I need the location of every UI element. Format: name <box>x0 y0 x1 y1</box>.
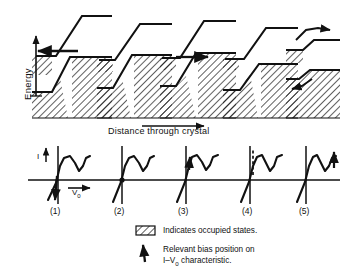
iv-characteristic-curve <box>113 156 154 202</box>
voltage-axis-label: V0 <box>72 188 81 199</box>
iv-characteristic-curve <box>177 155 218 202</box>
distance-axis-label: Distance through crystal <box>108 126 209 136</box>
iv-panel-5 <box>288 146 340 204</box>
energy-axis-label: Energy <box>22 68 33 100</box>
thermionic-flow-arrow-upper <box>296 28 330 40</box>
iv-characteristic-curve <box>48 156 90 200</box>
legend-bias-line2-suffix: characteristic. <box>181 256 232 265</box>
legend-bias-position-text: Relevant bias position on I–V0 character… <box>163 245 255 269</box>
iv-characteristic-curve <box>241 155 282 202</box>
legend-bias-line2-sub: 0 <box>175 259 178 266</box>
legend-glyphs <box>136 226 155 262</box>
iv-panel-2 <box>96 146 160 204</box>
occupied-states-left-upper <box>286 50 303 63</box>
current-axis-label: I <box>37 152 39 161</box>
occupied-states-left-lower <box>32 78 68 118</box>
hatch-swatch <box>136 226 155 235</box>
tunnel-diode-figure: Energy Distance through crystal I V0 (1)… <box>0 0 340 275</box>
occupied-states-left-upper <box>223 59 239 70</box>
bias-position-marker <box>119 177 124 182</box>
conduction-band-edge <box>286 40 340 50</box>
iv-panel-3 <box>160 146 224 204</box>
occupied-states-left-upper <box>160 58 176 70</box>
panel-number-1: (1) <box>50 206 60 216</box>
panel-number-4: (4) <box>242 206 252 216</box>
legend-bias-line1: Relevant bias position on <box>163 245 255 254</box>
occupied-states-left-upper <box>97 60 113 72</box>
iv-characteristic-curve <box>297 155 336 202</box>
iv-panel-4 <box>224 146 288 204</box>
panel-number-2: (2) <box>114 206 124 216</box>
legend-occupied-states-text: Indicates occupied states. <box>163 226 257 237</box>
bias-position-marker <box>189 157 190 170</box>
panel-number-3: (3) <box>178 206 188 216</box>
bias-marker-swatch <box>143 245 145 262</box>
panel-number-5: (5) <box>299 206 309 216</box>
voltage-axis-subscript: 0 <box>77 193 80 199</box>
occupied-states-left-upper <box>32 56 52 75</box>
